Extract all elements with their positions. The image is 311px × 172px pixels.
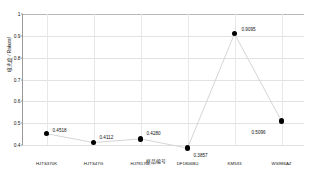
plot-area: 0.40.50.60.70.80.91 0.45180.41120.42800.… bbox=[22, 14, 304, 145]
line-chart: 吸光度 / Rakuraf 0.40.50.60.70.80.91 0.4518… bbox=[0, 0, 311, 172]
y-tick-label: 0.7 bbox=[14, 77, 21, 82]
y-tick-label: 0.8 bbox=[14, 55, 21, 60]
x-axis-title: 样品编号 bbox=[0, 159, 311, 165]
y-tick-label: 0.6 bbox=[14, 99, 21, 104]
data-point-marker[interactable] bbox=[279, 118, 284, 123]
y-axis-title: 吸光度 / Rakuraf bbox=[7, 20, 12, 90]
series-polyline bbox=[47, 34, 282, 148]
data-point-marker[interactable] bbox=[138, 136, 143, 141]
data-point-label: 0.5096 bbox=[252, 130, 266, 135]
data-point-label: 0.4280 bbox=[147, 131, 161, 136]
data-point-label: 0.4518 bbox=[53, 128, 67, 133]
y-tick-label: 0.4 bbox=[14, 143, 21, 148]
data-point-label: 0.4112 bbox=[100, 135, 114, 140]
data-point-marker[interactable] bbox=[185, 145, 190, 150]
y-tick-label: 0.9 bbox=[14, 33, 21, 38]
data-point-label: 0.9095 bbox=[242, 27, 256, 32]
gridline-horizontal bbox=[23, 145, 304, 146]
series-line bbox=[23, 14, 305, 145]
y-tick-label: 0.5 bbox=[14, 121, 21, 126]
data-point-label: 0.3857 bbox=[194, 153, 208, 158]
y-tick-label: 1 bbox=[18, 12, 21, 17]
